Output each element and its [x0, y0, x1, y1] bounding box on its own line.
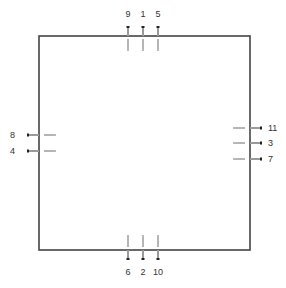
pin-label-right: 11 — [268, 123, 277, 133]
pin-bottom-0-icon — [127, 235, 130, 260]
pin-right-0-icon — [233, 127, 262, 130]
pin-label-left: 4 — [10, 146, 15, 156]
pin-left-1-icon — [27, 150, 56, 153]
pin-label-top: 9 — [125, 9, 130, 19]
pin-top-1-icon — [142, 26, 145, 51]
pin-bottom-2-icon — [157, 235, 160, 260]
pin-left-0-icon — [27, 134, 56, 137]
pin-bottom-1-icon — [142, 235, 145, 260]
pin-label-top: 5 — [155, 9, 160, 19]
pin-right-2-icon — [233, 158, 262, 161]
pin-top-2-icon — [157, 26, 160, 51]
pin-label-right: 7 — [268, 154, 273, 164]
pin-right-1-icon — [233, 142, 262, 145]
pin-label-bottom: 2 — [140, 267, 145, 277]
pin-label-bottom: 10 — [153, 267, 163, 277]
pin-top-0-icon — [127, 26, 130, 51]
pin-label-top: 1 — [140, 9, 145, 19]
pin-label-left: 8 — [10, 130, 15, 140]
pin-diagram — [0, 0, 286, 288]
pin-label-bottom: 6 — [125, 267, 130, 277]
pin-label-right: 3 — [268, 138, 273, 148]
component-outline — [39, 36, 250, 250]
